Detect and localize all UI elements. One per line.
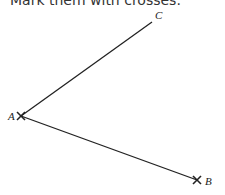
label-a: A [7,110,15,122]
cross-a-icon [17,112,25,120]
ray-ac [21,22,152,116]
label-c: C [155,9,163,21]
angle-diagram: A B C [0,0,225,195]
label-b: B [205,175,212,187]
cross-b-icon [193,176,201,184]
ray-ab [21,116,197,180]
